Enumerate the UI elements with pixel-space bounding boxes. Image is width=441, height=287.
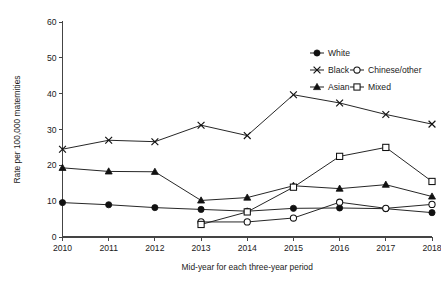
data-point-open-circle (244, 219, 250, 225)
x-axis-ticks: 201020112012201320142015201620172018 (53, 237, 441, 253)
y-axis-ticks: 0102030405060 (47, 17, 63, 242)
legend-item-chinese-other: Chinese/other (350, 65, 422, 75)
legend-item-white: White (310, 48, 350, 58)
y-tick-label: 30 (47, 125, 57, 135)
data-point-filled-triangle (382, 181, 389, 187)
data-point-cross (382, 111, 389, 118)
data-point-open-circle (383, 205, 389, 211)
legend-label: Black (328, 65, 350, 75)
data-point-filled-circle (59, 200, 65, 206)
x-tick-label: 2017 (376, 243, 395, 253)
data-point-open-circle (354, 67, 360, 73)
data-point-open-square (337, 153, 343, 159)
data-point-open-square (383, 144, 389, 150)
data-point-open-square (290, 184, 296, 190)
data-point-open-circle (429, 201, 435, 207)
y-tick-label: 20 (47, 160, 57, 170)
data-point-open-square (429, 178, 435, 184)
data-point-cross (244, 132, 251, 139)
line-chart: 0102030405060 20102011201220132014201520… (0, 0, 441, 287)
chart-canvas: 0102030405060 20102011201220132014201520… (0, 0, 441, 287)
data-point-open-square (354, 84, 360, 90)
y-axis-group: 0102030405060 (47, 17, 63, 242)
data-point-filled-triangle (314, 83, 321, 89)
x-tick-label: 2010 (53, 243, 72, 253)
data-point-open-square (198, 221, 204, 227)
series-asian (59, 164, 436, 203)
x-tick-label: 2018 (422, 243, 441, 253)
legend-label: Chinese/other (368, 65, 422, 75)
data-point-filled-circle (152, 205, 158, 211)
legend-label: White (328, 48, 350, 58)
y-tick-label: 50 (47, 53, 57, 63)
data-point-filled-circle (429, 210, 435, 216)
y-axis-title: Rate per 100,000 maternities (12, 75, 22, 183)
series-black (59, 91, 435, 152)
y-tick-label: 60 (47, 17, 57, 27)
x-tick-label: 2016 (330, 243, 349, 253)
x-axis-title: Mid-year for each three-year period (182, 262, 314, 272)
x-tick-label: 2013 (192, 243, 211, 253)
legend-label: Asian (328, 82, 350, 92)
x-tick-label: 2011 (99, 243, 118, 253)
data-point-open-square (244, 209, 250, 215)
legend-item-black: Black (310, 65, 350, 75)
data-point-filled-circle (290, 205, 296, 211)
data-point-filled-circle (314, 50, 320, 56)
legend-item-asian: Asian (310, 82, 350, 92)
data-point-open-circle (290, 215, 296, 221)
data-point-cross (198, 122, 205, 129)
chart-legend: WhiteBlackChinese/otherAsianMixed (310, 48, 422, 92)
x-tick-label: 2015 (284, 243, 303, 253)
legend-label: Mixed (368, 82, 391, 92)
data-point-cross (429, 121, 436, 128)
data-point-filled-triangle (151, 168, 158, 174)
data-point-filled-circle (106, 202, 112, 208)
data-point-filled-circle (198, 206, 204, 212)
x-axis-group: 201020112012201320142015201620172018 (53, 237, 441, 253)
series-chinese-other (198, 199, 435, 225)
y-tick-label: 10 (47, 196, 57, 206)
x-tick-label: 2012 (145, 243, 164, 253)
y-tick-label: 0 (52, 232, 57, 242)
x-tick-label: 2014 (238, 243, 257, 253)
y-tick-label: 40 (47, 89, 57, 99)
series-layer (59, 91, 436, 227)
data-point-open-circle (337, 199, 343, 205)
legend-item-mixed: Mixed (350, 82, 391, 92)
series-mixed (198, 144, 435, 227)
